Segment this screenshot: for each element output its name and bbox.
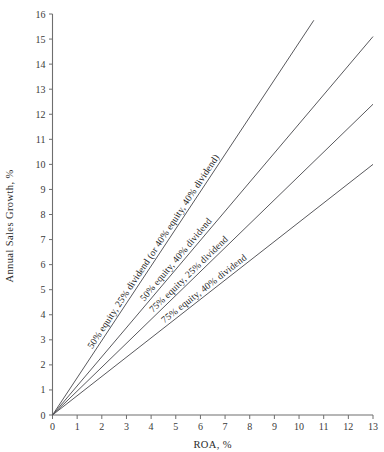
y-axis-tick-label: 11	[36, 134, 46, 145]
x-axis-tick-label: 11	[319, 421, 329, 432]
series-line-group	[53, 20, 374, 415]
y-axis-tick-label: 3	[41, 334, 46, 345]
line-chart-plot: 012345678910111213141516 012345678910111…	[0, 0, 384, 452]
y-axis-tick-label: 16	[36, 9, 46, 20]
x-axis-tick-label: 2	[99, 421, 104, 432]
x-axis-tick-label: 4	[149, 421, 154, 432]
y-axis-tick-label: 5	[41, 284, 46, 295]
x-axis-tick-label: 7	[223, 421, 228, 432]
x-axis-tick-label: 12	[343, 421, 353, 432]
x-axis-tick-label: 10	[294, 421, 304, 432]
y-axis-tick-label: 14	[36, 59, 46, 70]
x-axis-tick-label: 9	[272, 421, 277, 432]
y-axis-title: Annual Sales Growth, %	[4, 169, 15, 282]
y-axis-tick-label: 8	[41, 209, 46, 220]
series-label-0: 50% equity, 25% dividend (or 40% equity,…	[85, 152, 222, 351]
y-axis-tick-label: 2	[41, 359, 46, 370]
series-line-2	[53, 104, 374, 415]
x-axis-tick-label: 8	[247, 421, 252, 432]
x-axis-tick-label: 6	[198, 421, 203, 432]
x-axis-title: ROA, %	[193, 439, 232, 450]
series-line-0	[53, 20, 314, 415]
x-axis-tick-label: 3	[124, 421, 129, 432]
y-axis-tick-group: 012345678910111213141516	[36, 9, 53, 421]
series-label-group: 50% equity, 25% dividend (or 40% equity,…	[85, 152, 249, 351]
y-axis-tick-label: 12	[36, 109, 46, 120]
x-axis-tick-label: 13	[368, 421, 378, 432]
y-axis-tick-label: 4	[41, 309, 46, 320]
x-axis-tick-label: 5	[173, 421, 178, 432]
y-axis-tick-label: 9	[41, 184, 46, 195]
series-line-1	[53, 37, 374, 415]
y-axis-tick-label: 7	[41, 234, 46, 245]
y-axis-tick-label: 0	[41, 410, 46, 421]
y-axis-tick-label: 6	[41, 259, 46, 270]
series-line-3	[53, 164, 374, 415]
y-axis-tick-label: 15	[36, 34, 46, 45]
x-axis-tick-label: 0	[50, 421, 55, 432]
y-axis-tick-label: 10	[36, 159, 46, 170]
chart-container: 012345678910111213141516 012345678910111…	[0, 0, 384, 452]
x-axis-tick-label: 1	[75, 421, 80, 432]
x-axis-tick-group: 012345678910111213	[50, 415, 378, 432]
y-axis-tick-label: 13	[36, 84, 46, 95]
y-axis-tick-label: 1	[41, 384, 46, 395]
